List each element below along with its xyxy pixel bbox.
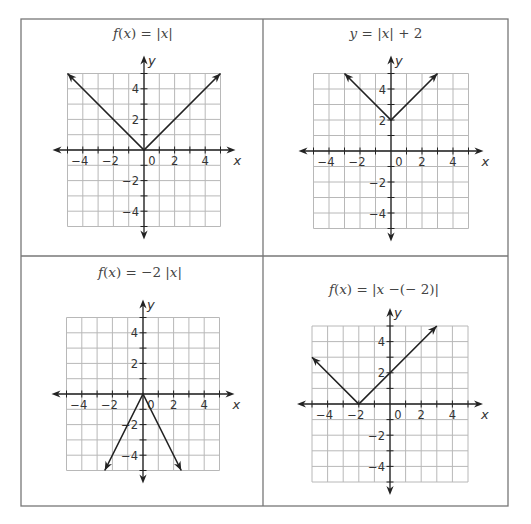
x-tick-label: −4 (316, 408, 333, 422)
graph-panel-3: f(x) = −2 |x|−4−202442−2−4xy (52, 264, 241, 484)
y-tick-label: 2 (131, 357, 138, 371)
x-tick-label: −4 (70, 398, 87, 412)
x-tick-label: 4 (449, 155, 456, 169)
y-tick-label: 2 (132, 113, 139, 127)
panel-frame (21, 19, 508, 506)
x-tick-label: 2 (170, 398, 177, 412)
axes (297, 308, 483, 495)
y-tick-label: 4 (379, 83, 386, 97)
graph-panel-2: y = |x| + 2−4−202442−2−4xy (299, 25, 490, 242)
x-axis-label: x (233, 153, 242, 168)
x-tick-label: 0 (394, 408, 401, 422)
y-axis-label: y (146, 297, 155, 312)
axes (53, 56, 236, 240)
axes (52, 300, 235, 484)
y-tick-label: −2 (369, 176, 386, 190)
y-tick-label: −4 (121, 449, 138, 463)
y-tick-label: −4 (122, 205, 139, 219)
y-axis-label: y (394, 53, 403, 68)
y-tick-label: −4 (368, 460, 385, 474)
y-axis-label: y (393, 305, 402, 320)
x-axis-label: x (480, 407, 489, 422)
panels: f(x) = |x|−4−202442−2−4xyy = |x| + 2−4−2… (52, 25, 490, 495)
x-tick-label: −2 (102, 154, 119, 168)
graph-title: f(x) = |x| (112, 25, 173, 41)
x-tick-label: 2 (418, 155, 425, 169)
y-axis-label: y (147, 53, 156, 68)
y-tick-label: 4 (132, 82, 139, 96)
graph-panel-4: f(x) = |x −(− 2)|−4−202442−2−4xy (297, 281, 489, 495)
x-axis-label: x (232, 397, 241, 412)
x-tick-label: −4 (71, 154, 88, 168)
x-tick-label: 4 (449, 408, 456, 422)
x-tick-label: 0 (395, 155, 402, 169)
y-tick-label: −2 (368, 429, 385, 443)
graph-title: y = |x| + 2 (349, 25, 423, 41)
y-tick-label: −4 (369, 207, 386, 221)
x-tick-label: 0 (148, 154, 155, 168)
x-tick-label: −2 (101, 398, 118, 412)
graph-title: f(x) = −2 |x| (97, 264, 182, 280)
axes (299, 56, 484, 242)
y-tick-label: 4 (378, 335, 385, 349)
outer-border (21, 19, 508, 506)
x-tick-label: 2 (171, 154, 178, 168)
y-tick-label: 4 (131, 326, 138, 340)
x-tick-label: −4 (318, 155, 335, 169)
x-axis-label: x (481, 154, 490, 169)
absolute-value-graphs-figure: f(x) = |x|−4−202442−2−4xyy = |x| + 2−4−2… (0, 0, 531, 524)
x-tick-label: −2 (347, 408, 364, 422)
x-tick-label: 4 (202, 154, 209, 168)
y-tick-label: −2 (122, 174, 139, 188)
x-tick-label: 2 (418, 408, 425, 422)
figure-canvas: f(x) = |x|−4−202442−2−4xyy = |x| + 2−4−2… (0, 0, 531, 524)
x-tick-label: 4 (201, 398, 208, 412)
graph-panel-1: f(x) = |x|−4−202442−2−4xy (53, 25, 242, 240)
y-tick-label: 2 (379, 114, 386, 128)
graph-title: f(x) = |x −(− 2)| (328, 281, 439, 297)
x-tick-label: −2 (349, 155, 366, 169)
